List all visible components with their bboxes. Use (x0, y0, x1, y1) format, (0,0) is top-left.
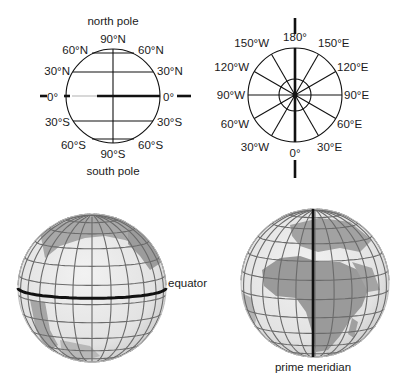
label-30n-right: 30°N (157, 65, 183, 77)
label-120w: 120°W (214, 61, 249, 73)
label-60e: 60°E (337, 118, 362, 130)
label-90e: 90°E (344, 89, 369, 101)
pole-point (293, 93, 298, 98)
label-0-right: 0° (163, 91, 174, 103)
prime-meridian-label: prime meridian (275, 361, 351, 373)
south-pole-label: south pole (86, 165, 139, 177)
label-60s-left: 60°S (61, 139, 86, 151)
label-0-left: 0° (47, 91, 58, 103)
label-180: 180° (283, 31, 307, 43)
equator-label: equator (168, 277, 207, 289)
label-30n-left: 30°N (44, 65, 70, 77)
label-90n: 90°N (100, 33, 126, 45)
equator-globe: equator (18, 214, 207, 362)
label-60w: 60°W (221, 118, 249, 130)
latitude-diagram: north pole 90°N 60°N 60°N 30°N 30°N 0° 0… (40, 15, 191, 177)
label-60n-right: 60°N (138, 44, 164, 56)
label-0: 0° (290, 147, 301, 159)
label-150w: 150°W (234, 37, 269, 49)
figure: north pole 90°N 60°N 60°N 30°N 30°N 0° 0… (0, 0, 401, 382)
prime-meridian-globe: prime meridian (240, 209, 389, 373)
label-30w: 30°W (241, 141, 269, 153)
label-60n-left: 60°N (62, 44, 88, 56)
label-90w: 90°W (217, 89, 245, 101)
longitude-diagram: 180° 150°W 150°E 120°W 120°E 90°W 90°E 6… (214, 18, 369, 178)
label-30e: 30°E (317, 141, 342, 153)
north-pole-label: north pole (87, 15, 138, 27)
label-30s-left: 30°S (45, 116, 70, 128)
label-150e: 150°E (318, 37, 350, 49)
label-60s-right: 60°S (138, 139, 163, 151)
label-30s-right: 30°S (157, 116, 182, 128)
label-120e: 120°E (337, 61, 369, 73)
globe-graticule (241, 209, 389, 357)
globe-graticule (18, 214, 166, 362)
label-90s: 90°S (100, 148, 125, 160)
